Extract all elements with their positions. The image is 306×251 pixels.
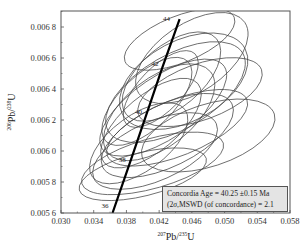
concordia-age-label: 44 bbox=[163, 15, 171, 23]
annotation-line-2: (2σ,MSWD (of concordance) = 2.1 bbox=[167, 199, 287, 210]
y-tick-label: 0.006 0 bbox=[31, 146, 57, 156]
y-tick-label: 0.006 4 bbox=[31, 84, 57, 94]
concordia-age-label: 42 bbox=[151, 60, 159, 68]
y-axis-title: 206Pb/238U bbox=[6, 93, 17, 131]
plot-frame bbox=[61, 11, 290, 213]
x-tick-label: 0.042 bbox=[150, 216, 169, 226]
x-tick-label: 0.058 bbox=[280, 216, 299, 226]
concordia-age-label: 36 bbox=[102, 202, 110, 210]
concordia-age-label: 38 bbox=[119, 156, 127, 164]
error-ellipse bbox=[133, 85, 284, 187]
y-tick-label: 0.006 8 bbox=[31, 22, 57, 32]
x-tick-label: 0.050 bbox=[215, 216, 234, 226]
x-tick-label: 0.038 bbox=[117, 216, 136, 226]
y-tick-label: 0.005 8 bbox=[31, 177, 57, 187]
y-tick-label: 0.006 2 bbox=[31, 115, 57, 125]
error-ellipses bbox=[74, 0, 284, 211]
x-tick-label: 0.046 bbox=[182, 216, 201, 226]
annotation-line-1: Concordia Age = 40.25 ±0.15 Ma bbox=[167, 188, 287, 199]
concordia-age-annotation: Concordia Age = 40.25 ±0.15 Ma (2σ,MSWD … bbox=[162, 186, 288, 212]
y-axis-ticks: 0.005 60.005 80.006 00.006 20.006 40.006… bbox=[31, 12, 65, 219]
x-tick-label: 0.054 bbox=[248, 216, 268, 226]
concordia-age-label: 40 bbox=[135, 108, 143, 116]
concordia-chart: 0.0300.0340.0380.0420.0460.0500.0540.058… bbox=[0, 0, 306, 251]
error-ellipse bbox=[87, 43, 206, 160]
y-tick-label: 0.005 6 bbox=[31, 208, 57, 218]
error-ellipse bbox=[90, 21, 262, 163]
x-axis-title: 207Pb/235U bbox=[157, 231, 195, 242]
x-axis-ticks: 0.0300.0340.0380.0420.0460.0500.0540.058 bbox=[51, 210, 299, 226]
x-tick-label: 0.034 bbox=[84, 216, 104, 226]
y-tick-label: 0.006 6 bbox=[31, 53, 57, 63]
